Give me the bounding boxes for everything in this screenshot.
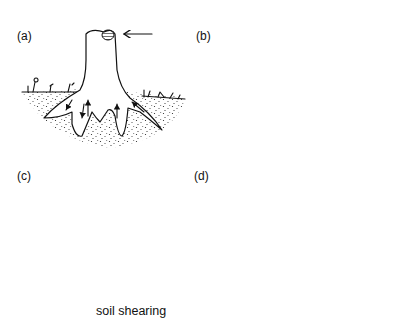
uprooting-diagram bbox=[0, 0, 397, 328]
soil-shearing-label: soil shearing bbox=[96, 304, 166, 318]
panel-label-c: (c) bbox=[17, 169, 31, 183]
panel-label-a: (a) bbox=[17, 29, 32, 43]
panel-label-d: (d) bbox=[194, 169, 209, 183]
panel-label-b: (b) bbox=[196, 29, 211, 43]
panel-a bbox=[22, 30, 185, 148]
